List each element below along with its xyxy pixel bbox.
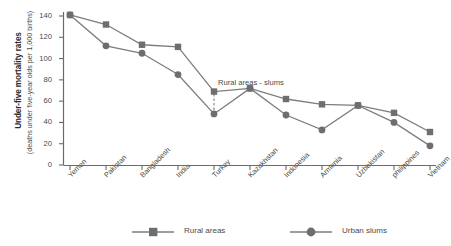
square-marker-icon	[211, 88, 217, 94]
circle-marker-icon	[67, 12, 74, 19]
square-marker-icon	[283, 96, 289, 102]
circle-marker-icon	[283, 112, 290, 119]
circle-marker-icon	[103, 42, 110, 49]
circle-marker-icon	[355, 102, 362, 109]
circle-marker-icon	[307, 228, 316, 237]
y-axis-ticks	[59, 16, 64, 165]
series-rural-areas	[67, 12, 433, 135]
square-marker-icon	[391, 110, 397, 116]
legend-label-urban-slums: Urban slums	[342, 226, 387, 235]
circle-marker-icon	[175, 71, 182, 78]
square-marker-icon	[319, 101, 325, 107]
square-marker-icon	[139, 42, 145, 48]
circle-marker-icon	[427, 142, 434, 149]
circle-marker-icon	[211, 111, 218, 118]
square-marker-icon	[149, 228, 157, 236]
circle-marker-icon	[319, 126, 326, 133]
square-marker-icon	[103, 21, 109, 27]
circle-marker-icon	[139, 50, 146, 57]
legend-item-rural-areas[interactable]	[132, 228, 174, 236]
legend-item-urban-slums[interactable]	[290, 228, 332, 237]
square-marker-icon	[175, 44, 181, 50]
square-marker-icon	[427, 129, 433, 135]
legend-label-rural-areas: Rural areas	[184, 226, 225, 235]
circle-marker-icon	[391, 119, 398, 126]
annotation-rural-minus-slums: Rural areas - slums	[218, 78, 284, 87]
